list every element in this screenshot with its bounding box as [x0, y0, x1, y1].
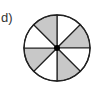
- fraction-circle-diagram: [0, 0, 97, 91]
- center-dot: [54, 45, 60, 51]
